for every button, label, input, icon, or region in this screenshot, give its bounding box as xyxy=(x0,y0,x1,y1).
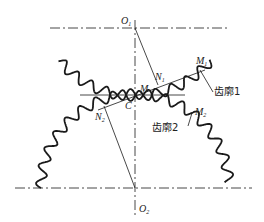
gear-meshing-diagram: O1 O2 C M N1 N2 M1 M2 齿廓1 齿廓2 xyxy=(0,0,264,222)
label-n1: N1 xyxy=(154,71,165,83)
label-c: C xyxy=(125,100,132,111)
radius-o2-n2 xyxy=(104,106,135,188)
label-profile-2: 齿廓2 xyxy=(152,121,178,133)
label-o2: O2 xyxy=(139,203,149,215)
label-profile-1: 齿廓1 xyxy=(214,85,240,97)
line-of-action xyxy=(98,70,205,110)
label-m1: M1 xyxy=(195,55,207,67)
leader-profile1 xyxy=(200,70,213,92)
label-o1: O1 xyxy=(121,15,131,27)
label-m2: M2 xyxy=(194,106,206,118)
label-n2: N2 xyxy=(94,111,105,123)
label-m: M xyxy=(139,83,149,94)
